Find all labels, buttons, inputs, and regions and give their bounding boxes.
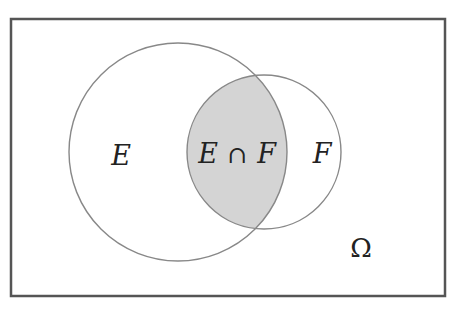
intersection-right-label: F [256,138,277,169]
venn-diagram: E E ∩ F F Ω [0,0,460,311]
set-e-label: E [110,140,131,171]
intersection-operator: ∩ [227,141,247,169]
set-f-label: F [312,138,333,169]
intersection-label: E ∩ F [197,138,277,169]
universe-label: Ω [350,233,372,263]
intersection-left-label: E [197,138,218,169]
